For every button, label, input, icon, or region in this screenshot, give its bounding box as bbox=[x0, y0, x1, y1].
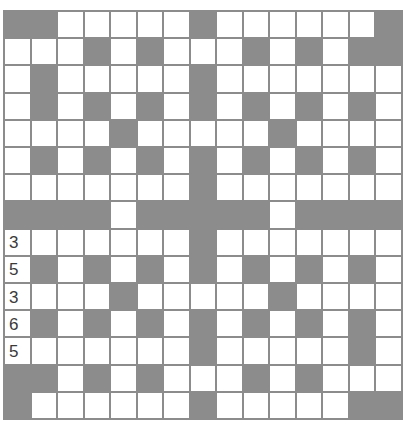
open-cell[interactable] bbox=[164, 66, 189, 91]
open-cell[interactable] bbox=[164, 230, 189, 255]
open-cell[interactable] bbox=[85, 393, 110, 418]
open-cell[interactable] bbox=[164, 39, 189, 64]
open-cell[interactable] bbox=[138, 230, 163, 255]
open-cell[interactable] bbox=[217, 230, 242, 255]
open-cell[interactable] bbox=[164, 393, 189, 418]
open-cell[interactable] bbox=[111, 39, 136, 64]
open-cell[interactable] bbox=[85, 284, 110, 309]
open-cell[interactable] bbox=[376, 284, 401, 309]
open-cell[interactable] bbox=[111, 148, 136, 173]
open-cell[interactable] bbox=[323, 148, 348, 173]
open-cell[interactable] bbox=[376, 311, 401, 336]
open-cell[interactable] bbox=[217, 393, 242, 418]
open-cell[interactable] bbox=[244, 393, 269, 418]
open-cell[interactable] bbox=[270, 366, 295, 391]
open-cell[interactable] bbox=[350, 121, 375, 146]
open-cell[interactable] bbox=[270, 148, 295, 173]
open-cell[interactable] bbox=[111, 366, 136, 391]
open-cell[interactable] bbox=[138, 338, 163, 363]
open-cell[interactable] bbox=[323, 393, 348, 418]
open-cell[interactable] bbox=[297, 284, 322, 309]
open-cell[interactable] bbox=[323, 94, 348, 119]
open-cell[interactable] bbox=[85, 338, 110, 363]
open-cell[interactable] bbox=[297, 12, 322, 37]
open-cell[interactable] bbox=[323, 338, 348, 363]
open-cell[interactable] bbox=[297, 338, 322, 363]
open-cell[interactable] bbox=[323, 66, 348, 91]
open-cell[interactable] bbox=[350, 12, 375, 37]
open-cell[interactable] bbox=[270, 393, 295, 418]
open-cell[interactable] bbox=[323, 175, 348, 200]
open-cell[interactable] bbox=[217, 39, 242, 64]
open-cell[interactable] bbox=[58, 338, 83, 363]
open-cell[interactable] bbox=[32, 393, 57, 418]
open-cell[interactable] bbox=[5, 121, 30, 146]
open-cell[interactable] bbox=[297, 66, 322, 91]
open-cell[interactable] bbox=[138, 66, 163, 91]
open-cell[interactable] bbox=[244, 121, 269, 146]
open-cell[interactable] bbox=[58, 230, 83, 255]
open-cell[interactable] bbox=[58, 94, 83, 119]
open-cell[interactable] bbox=[191, 284, 216, 309]
open-cell[interactable] bbox=[297, 230, 322, 255]
open-cell[interactable] bbox=[217, 257, 242, 282]
open-cell[interactable] bbox=[323, 284, 348, 309]
open-cell[interactable] bbox=[270, 338, 295, 363]
open-cell[interactable] bbox=[111, 175, 136, 200]
open-cell[interactable] bbox=[5, 94, 30, 119]
open-cell[interactable] bbox=[164, 257, 189, 282]
open-cell[interactable] bbox=[164, 366, 189, 391]
open-cell[interactable] bbox=[85, 175, 110, 200]
open-cell[interactable] bbox=[58, 393, 83, 418]
open-cell[interactable] bbox=[350, 284, 375, 309]
open-cell[interactable] bbox=[376, 338, 401, 363]
open-cell[interactable] bbox=[58, 284, 83, 309]
open-cell[interactable] bbox=[376, 230, 401, 255]
open-cell[interactable] bbox=[191, 366, 216, 391]
open-cell[interactable] bbox=[244, 175, 269, 200]
open-cell[interactable] bbox=[58, 257, 83, 282]
open-cell[interactable] bbox=[164, 311, 189, 336]
open-cell[interactable] bbox=[376, 66, 401, 91]
open-cell[interactable] bbox=[376, 121, 401, 146]
open-cell[interactable] bbox=[270, 230, 295, 255]
open-cell[interactable] bbox=[323, 39, 348, 64]
open-cell[interactable] bbox=[376, 94, 401, 119]
open-cell[interactable] bbox=[138, 12, 163, 37]
open-cell[interactable] bbox=[376, 257, 401, 282]
open-cell[interactable] bbox=[111, 338, 136, 363]
open-cell[interactable] bbox=[138, 175, 163, 200]
open-cell[interactable] bbox=[32, 230, 57, 255]
open-cell[interactable] bbox=[217, 12, 242, 37]
open-cell[interactable] bbox=[217, 94, 242, 119]
open-cell[interactable] bbox=[270, 257, 295, 282]
open-cell[interactable]: 5 bbox=[5, 338, 30, 363]
open-cell[interactable] bbox=[244, 284, 269, 309]
open-cell[interactable] bbox=[58, 121, 83, 146]
open-cell[interactable] bbox=[376, 175, 401, 200]
open-cell[interactable] bbox=[217, 148, 242, 173]
open-cell[interactable] bbox=[85, 12, 110, 37]
open-cell[interactable] bbox=[111, 311, 136, 336]
open-cell[interactable] bbox=[58, 175, 83, 200]
open-cell[interactable] bbox=[217, 284, 242, 309]
open-cell[interactable] bbox=[138, 284, 163, 309]
open-cell[interactable] bbox=[111, 202, 136, 227]
open-cell[interactable] bbox=[58, 39, 83, 64]
open-cell[interactable] bbox=[376, 366, 401, 391]
open-cell[interactable] bbox=[111, 257, 136, 282]
open-cell[interactable] bbox=[217, 121, 242, 146]
open-cell[interactable] bbox=[323, 230, 348, 255]
open-cell[interactable] bbox=[164, 284, 189, 309]
open-cell[interactable] bbox=[58, 148, 83, 173]
open-cell[interactable] bbox=[350, 366, 375, 391]
open-cell[interactable] bbox=[32, 121, 57, 146]
open-cell[interactable] bbox=[244, 230, 269, 255]
open-cell[interactable] bbox=[32, 39, 57, 64]
open-cell[interactable]: 3 bbox=[5, 230, 30, 255]
open-cell[interactable] bbox=[297, 175, 322, 200]
open-cell[interactable] bbox=[5, 148, 30, 173]
open-cell[interactable] bbox=[270, 12, 295, 37]
open-cell[interactable] bbox=[58, 12, 83, 37]
open-cell[interactable] bbox=[270, 202, 295, 227]
